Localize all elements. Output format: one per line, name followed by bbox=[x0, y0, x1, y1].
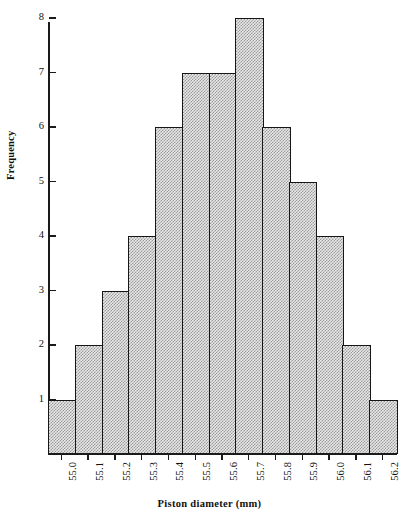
y-axis-tick-label-text: 7 bbox=[22, 67, 44, 77]
x-axis-tick bbox=[275, 454, 276, 460]
x-axis-tick bbox=[302, 454, 303, 460]
histogram-bar bbox=[369, 400, 397, 455]
bars-container bbox=[48, 18, 396, 454]
y-axis-tick-label-text: 5 bbox=[22, 176, 44, 186]
x-axis-tick bbox=[248, 454, 249, 460]
histogram-bar bbox=[342, 345, 370, 454]
y-axis-tick-label: 5 bbox=[22, 176, 44, 187]
x-axis-tick bbox=[87, 454, 88, 460]
y-axis-tick-label: 6 bbox=[22, 121, 44, 132]
y-axis-tick-label-text: 2 bbox=[22, 339, 44, 349]
y-axis-tick-label-text: 4 bbox=[22, 230, 44, 240]
y-axis-tick-label: 3 bbox=[22, 285, 44, 296]
y-axis-tick-label: 8 bbox=[22, 12, 44, 23]
x-axis-tick bbox=[328, 454, 329, 460]
histogram-bar bbox=[155, 127, 183, 454]
y-axis-tick-label: 2 bbox=[22, 339, 44, 350]
x-axis-tick bbox=[382, 454, 383, 460]
histogram-bar bbox=[102, 291, 130, 455]
x-axis-tick bbox=[61, 454, 62, 460]
x-axis-tick bbox=[114, 454, 115, 460]
histogram-bar bbox=[289, 182, 317, 455]
histogram-bar bbox=[128, 236, 156, 454]
y-axis-tick-label-text: 6 bbox=[22, 121, 44, 131]
histogram-bar bbox=[48, 400, 76, 455]
y-axis-tick-label: 7 bbox=[22, 67, 44, 78]
histogram-bar bbox=[182, 73, 210, 455]
x-axis-tick bbox=[355, 454, 356, 460]
x-axis-tick bbox=[195, 454, 196, 460]
histogram-bar bbox=[316, 236, 344, 454]
histogram-bar bbox=[262, 127, 290, 454]
histogram-bar bbox=[209, 73, 237, 455]
y-axis-tick-label-text: 1 bbox=[22, 394, 44, 404]
y-axis-tick-label: 1 bbox=[22, 394, 44, 405]
histogram-chart: Frequency 12345678 55.055.155.255.355.45… bbox=[0, 0, 419, 521]
y-axis-tick-label-text: 3 bbox=[22, 285, 44, 295]
histogram-bar bbox=[75, 345, 103, 454]
plot-area bbox=[48, 18, 396, 454]
y-axis-title-label: Frequency bbox=[5, 60, 16, 180]
x-axis-title: Piston diameter (mm) bbox=[0, 498, 419, 509]
x-axis-tick bbox=[168, 454, 169, 460]
y-axis-tick-label-text: 8 bbox=[22, 12, 44, 22]
y-axis-tick-label: 4 bbox=[22, 230, 44, 241]
y-axis-title: Frequency bbox=[5, 60, 23, 180]
histogram-bar bbox=[235, 18, 263, 454]
x-axis-tick bbox=[221, 454, 222, 460]
x-axis-tick bbox=[141, 454, 142, 460]
